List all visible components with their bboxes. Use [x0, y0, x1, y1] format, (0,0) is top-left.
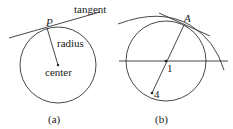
caption-b: (b) [155, 113, 168, 126]
tangent-line [9, 12, 100, 38]
point-p-label: P [45, 16, 53, 28]
point-4-dot [151, 92, 154, 95]
point-1-label: 1 [167, 62, 173, 74]
tangent-label: tangent [74, 3, 106, 15]
radius-label: radius [57, 37, 84, 49]
point-a-label: A [183, 12, 191, 24]
point-4-label: 4 [154, 88, 160, 100]
caption-a: (a) [48, 113, 61, 126]
figure-b: A 1 4 (b) [118, 12, 228, 126]
circle-tangent-diagram: P tangent radius center (a) A 1 4 (b) [0, 0, 233, 129]
diameter-line [152, 25, 184, 93]
figure-a: P tangent radius center (a) [9, 3, 106, 126]
center-label: center [45, 66, 72, 78]
